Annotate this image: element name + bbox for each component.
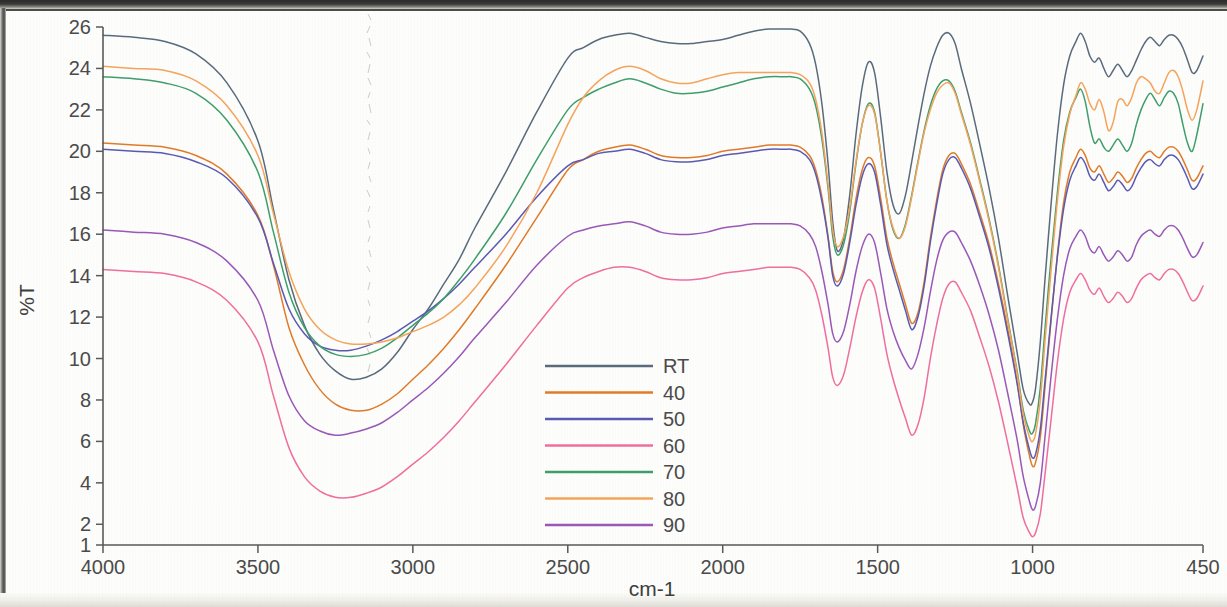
x-tick-label: 2500: [546, 556, 591, 578]
x-tick-label: 2000: [700, 556, 745, 578]
x-tick-label: 3000: [391, 556, 436, 578]
y-tick-label: 12: [69, 306, 91, 328]
spectrum-svg: 1246810121416182022242640003500300025002…: [0, 0, 1227, 607]
x-tick-label: 1000: [1010, 556, 1055, 578]
y-tick-label: 4: [80, 472, 91, 494]
y-tick-label: 22: [69, 99, 91, 121]
y-tick-label: 24: [69, 57, 91, 79]
y-tick-label: 6: [80, 430, 91, 452]
legend-layer: RT405060708090: [545, 355, 689, 536]
axis-spines: [103, 27, 1203, 545]
legend-label-50: 50: [663, 408, 685, 430]
series-line-80: [103, 66, 1203, 441]
y-tick-label: 16: [69, 223, 91, 245]
legend-label-70: 70: [663, 461, 685, 483]
y-tick-label: 8: [80, 389, 91, 411]
x-tick-label: 3500: [236, 556, 281, 578]
y-tick-label: 1: [80, 534, 91, 556]
y-tick-label: 20: [69, 140, 91, 162]
legend-label-80: 80: [663, 488, 685, 510]
legend-label-90: 90: [663, 514, 685, 536]
scanned-spectrum-page: 1246810121416182022242640003500300025002…: [0, 0, 1227, 607]
y-axis-title: %T: [15, 284, 38, 316]
x-axis-title: cm-1: [629, 577, 676, 600]
x-tick-label: 4000: [81, 556, 126, 578]
y-tick-label: 14: [69, 265, 91, 287]
ftir-spectrum-chart: 1246810121416182022242640003500300025002…: [0, 0, 1227, 607]
y-tick-label: 10: [69, 348, 91, 370]
axis-layer: [96, 27, 1203, 553]
series-layer: [103, 29, 1203, 537]
series-line-70: [103, 77, 1203, 434]
x-tick-label: 450: [1186, 556, 1219, 578]
y-tick-label: 2: [80, 513, 91, 535]
y-tick-label: 26: [69, 16, 91, 38]
legend-label-40: 40: [663, 382, 685, 404]
x-tick-label: 1500: [855, 556, 900, 578]
legend-label-rt: RT: [663, 355, 689, 377]
y-tick-label: 18: [69, 182, 91, 204]
legend-label-60: 60: [663, 435, 685, 457]
